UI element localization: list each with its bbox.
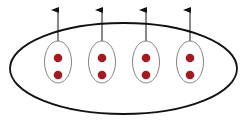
particle-dot bbox=[98, 71, 107, 80]
particle-dot bbox=[186, 71, 195, 80]
particle-group bbox=[133, 10, 160, 83]
particle-dot bbox=[98, 54, 107, 63]
particle-dot bbox=[142, 71, 151, 80]
particle-group bbox=[89, 10, 116, 83]
particle-dot bbox=[54, 71, 63, 80]
particle-dot bbox=[186, 54, 195, 63]
diagram-canvas bbox=[0, 0, 248, 129]
particle-dot bbox=[142, 54, 151, 63]
particle-groups bbox=[45, 10, 204, 83]
particle-dot bbox=[54, 54, 63, 63]
particle-group bbox=[177, 10, 204, 83]
particle-group bbox=[45, 10, 72, 83]
